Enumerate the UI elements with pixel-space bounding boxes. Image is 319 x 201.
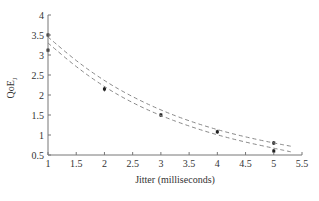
y-tick-label: 1.5 [32, 110, 45, 121]
x-tick-label: 4.5 [239, 158, 252, 169]
y-tick-label: 1 [39, 130, 44, 141]
y-axis-label-main: QoE [5, 80, 16, 98]
x-tick-label: 1.5 [70, 158, 83, 169]
y-tick-label: 4 [39, 10, 44, 21]
x-tick-label: 1 [46, 158, 51, 169]
x-tick-label: 3 [158, 158, 163, 169]
x-tick-label: 5.5 [296, 158, 309, 169]
y-axis-label-subscript: J [11, 77, 19, 80]
y-tick-label: 2.5 [32, 70, 45, 81]
y-tick-label: 3.5 [32, 30, 45, 41]
x-tick-label: 2.5 [126, 158, 139, 169]
x-tick-label: 4 [215, 158, 220, 169]
x-tick-label: 2 [102, 158, 107, 169]
y-tick-label: 2 [39, 90, 44, 101]
y-axis-label: QoEJ [5, 77, 19, 98]
x-tick-label: 5 [271, 158, 276, 169]
fit-curve [48, 43, 291, 152]
data-point [103, 88, 106, 91]
fit-curve [48, 37, 291, 146]
x-tick-label: 3.5 [183, 158, 196, 169]
plot-area [47, 33, 291, 153]
axes: 11.522.533.544.555.5 0.511.522.533.54 [32, 10, 309, 170]
data-point [216, 130, 219, 133]
qoe-jitter-chart: 11.522.533.544.555.5 0.511.522.533.54 Ji… [0, 0, 319, 201]
y-tick-label: 3 [39, 50, 44, 61]
y-tick-label: 0.5 [32, 150, 45, 161]
x-axis-label: Jitter (milliseconds) [135, 174, 215, 186]
